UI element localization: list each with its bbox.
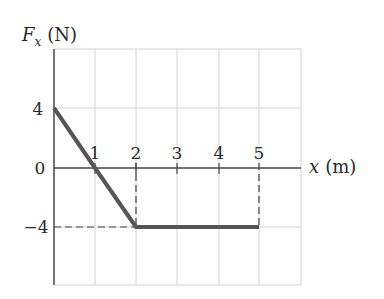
y-tick-neg4: −4 [23,217,48,237]
x-axis-label-var: x [309,156,319,177]
x-tick-3: 3 [172,143,183,163]
x-tick-1: 1 [90,143,101,163]
x-tick-2: 2 [131,143,142,163]
y-axis-label-sub: x [35,35,42,49]
x-tick-4: 4 [214,143,225,163]
x-axis-label: x(m) [309,156,356,177]
x-tick-5: 5 [254,143,265,163]
dashed-guides [54,163,259,227]
y-tick-0: 0 [35,158,46,178]
force-position-chart: 4 0 −4 1 2 3 4 5 Fx(N) x(m) [0,0,384,299]
x-axis-label-unit: (m) [325,156,356,177]
y-axis-label-unit: (N) [47,24,77,45]
y-axis-label: Fx(N) [21,24,77,49]
y-tick-4: 4 [33,99,44,119]
